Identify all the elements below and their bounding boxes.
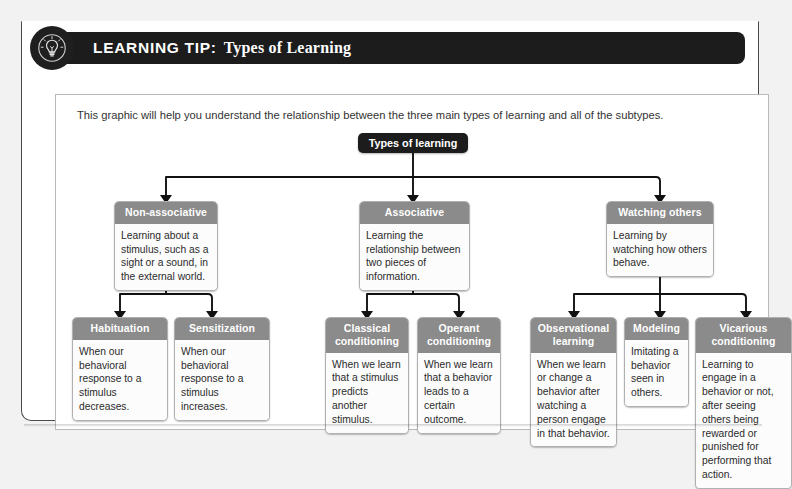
node-root-types-of-learning[interactable]: Types of learning bbox=[358, 133, 468, 153]
node-operant-conditioning[interactable]: Operant conditioning When we learn that … bbox=[417, 317, 501, 434]
node-associative-body: Learning the relationship between two pi… bbox=[360, 224, 469, 290]
node-sensitization[interactable]: Sensitization When our behavioral respon… bbox=[174, 317, 270, 421]
header-text-group: LEARNING TIP: Types of Learning bbox=[93, 39, 351, 57]
learning-tip-card: This graphic will help you understand th… bbox=[21, 21, 759, 421]
node-sensitization-header: Sensitization bbox=[175, 318, 269, 340]
node-habituation[interactable]: Habituation When our behavioral response… bbox=[72, 317, 168, 421]
lightbulb-icon bbox=[30, 26, 74, 70]
node-watching-others-header: Watching others bbox=[607, 202, 713, 224]
learning-types-flowchart: Types of learning Non-associative Learni… bbox=[56, 95, 770, 431]
node-classical-conditioning-body: When we learn that a stimulus predicts a… bbox=[326, 353, 408, 433]
node-vicarious-conditioning-body: Learning to engage in a behavior or not,… bbox=[696, 353, 791, 488]
node-non-associative[interactable]: Non-associative Learning about a stimulu… bbox=[114, 201, 218, 291]
node-habituation-body: When our behavioral response to a stimul… bbox=[73, 340, 167, 420]
node-modeling-header: Modeling bbox=[625, 318, 688, 340]
node-vicarious-conditioning[interactable]: Vicarious conditioning Learning to engag… bbox=[695, 317, 792, 489]
node-modeling[interactable]: Modeling Imitating a behavior seen in ot… bbox=[624, 317, 689, 407]
page-title: Types of Learning bbox=[224, 39, 352, 57]
node-associative-header: Associative bbox=[360, 202, 469, 224]
node-non-associative-header: Non-associative bbox=[115, 202, 217, 224]
node-vicarious-conditioning-header: Vicarious conditioning bbox=[696, 318, 791, 353]
card-drop-shadow bbox=[24, 424, 762, 427]
node-operant-conditioning-body: When we learn that a behavior leads to a… bbox=[418, 353, 500, 433]
learning-tip-header-bar: LEARNING TIP: Types of Learning bbox=[45, 32, 745, 64]
node-watching-others[interactable]: Watching others Learning by watching how… bbox=[606, 201, 714, 277]
node-associative[interactable]: Associative Learning the relationship be… bbox=[359, 201, 470, 291]
node-observational-learning-body: When we learn or change a behavior after… bbox=[531, 353, 616, 447]
node-classical-conditioning[interactable]: Classical conditioning When we learn tha… bbox=[325, 317, 409, 434]
node-sensitization-body: When our behavioral response to a stimul… bbox=[175, 340, 269, 420]
node-root-label: Types of learning bbox=[369, 137, 458, 149]
node-classical-conditioning-header: Classical conditioning bbox=[326, 318, 408, 353]
node-non-associative-body: Learning about a stimulus, such as a sig… bbox=[115, 224, 217, 290]
content-frame: This graphic will help you understand th… bbox=[55, 94, 769, 430]
node-observational-learning[interactable]: Observational learning When we learn or … bbox=[530, 317, 617, 447]
node-operant-conditioning-header: Operant conditioning bbox=[418, 318, 500, 353]
node-watching-others-body: Learning by watching how others behave. bbox=[607, 224, 713, 276]
node-habituation-header: Habituation bbox=[73, 318, 167, 340]
node-modeling-body: Imitating a behavior seen in others. bbox=[625, 340, 688, 406]
header-label: LEARNING TIP: bbox=[93, 39, 217, 57]
node-observational-learning-header: Observational learning bbox=[531, 318, 616, 353]
